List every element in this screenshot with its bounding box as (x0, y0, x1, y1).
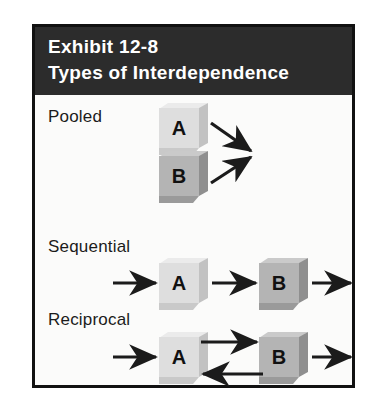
exhibit-header: Exhibit 12-8 Types of Interdependence (35, 27, 352, 95)
exhibit-title: Types of Interdependence (48, 60, 352, 86)
box-right-edge (199, 332, 208, 377)
reciprocal-box-b-label: B (259, 337, 299, 377)
row-label-sequential: Sequential (48, 237, 130, 257)
sequential-box-b-label: B (259, 263, 299, 303)
reciprocal-box-a-label: A (159, 337, 199, 377)
row-label-reciprocal: Reciprocal (48, 310, 130, 330)
box-bottom-edge (259, 377, 308, 384)
sequential-box-a: A (159, 258, 199, 298)
exhibit-body: Pooled A B Sequential A B Re (35, 95, 352, 385)
pooled-box-a: A (159, 103, 199, 143)
box-right-edge (299, 332, 308, 377)
pooled-box-b: B (159, 151, 199, 191)
box-right-edge (199, 151, 208, 196)
box-right-edge (199, 103, 208, 148)
box-bottom-edge (259, 303, 308, 310)
box-right-edge (299, 258, 308, 303)
sequential-box-a-label: A (159, 263, 199, 303)
sequential-box-b: B (259, 258, 299, 298)
box-bottom-edge (159, 303, 208, 310)
box-bottom-edge (159, 377, 208, 384)
reciprocal-box-b: B (259, 332, 299, 372)
pooled-box-a-label: A (159, 108, 199, 148)
reciprocal-box-a: A (159, 332, 199, 372)
row-label-pooled: Pooled (48, 107, 102, 127)
pooled-arrow-a-to-point (211, 123, 251, 151)
exhibit-number: Exhibit 12-8 (48, 34, 352, 60)
box-right-edge (199, 258, 208, 303)
exhibit-frame: Exhibit 12-8 Types of Interdependence Po… (32, 24, 355, 388)
pooled-box-b-label: B (159, 156, 199, 196)
pooled-arrow-b-to-point (211, 157, 251, 183)
box-bottom-edge (159, 196, 208, 203)
